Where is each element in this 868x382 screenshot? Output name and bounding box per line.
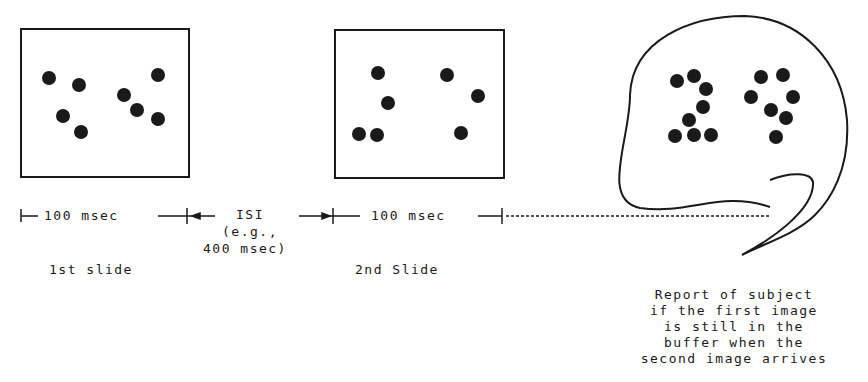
slide1-dots: [42, 68, 165, 139]
slide1-duration: 100 msec: [44, 208, 119, 224]
isi-duration: 400 msec): [203, 241, 287, 257]
dot: [699, 82, 713, 96]
dot: [744, 90, 758, 104]
dot: [74, 125, 88, 139]
dot: [776, 68, 790, 82]
slide2-duration: 100 msec: [371, 208, 446, 224]
dot: [668, 129, 682, 143]
dot: [151, 112, 165, 126]
slide2-label: 2nd Slide: [355, 262, 439, 278]
dot: [72, 78, 86, 92]
dot: [670, 74, 684, 88]
dot: [704, 128, 718, 142]
dot: [56, 109, 70, 123]
dot: [687, 128, 701, 142]
dot: [130, 103, 144, 117]
slide1-frame: [21, 29, 189, 177]
dot: [769, 130, 783, 144]
dot: [454, 126, 468, 140]
isi-example: (e.g.,: [222, 224, 278, 240]
dot: [42, 71, 56, 85]
dot: [687, 69, 701, 83]
dot: [764, 103, 778, 117]
caption-line: if the first image: [600, 303, 868, 319]
slide1-label: 1st slide: [49, 262, 133, 278]
caption-line: Report of subject: [600, 287, 868, 303]
dot: [754, 70, 768, 84]
isi-label: ISI: [236, 207, 264, 223]
dot: [471, 89, 485, 103]
buffer-bubble-outline: [619, 16, 847, 255]
slide2-frame: [335, 30, 504, 178]
dot: [370, 128, 384, 142]
dot: [786, 90, 800, 104]
dot: [779, 111, 793, 125]
buffer-caption: Report of subject if the first image is …: [600, 287, 868, 367]
caption-line: is still in the: [600, 319, 868, 335]
dot: [371, 66, 385, 80]
buffer-dots: [668, 68, 800, 144]
dot: [696, 100, 710, 114]
dot: [117, 88, 131, 102]
caption-line: second image arrives: [600, 351, 868, 367]
dot: [682, 113, 696, 127]
dot: [151, 68, 165, 82]
slide2-dots: [352, 66, 485, 142]
caption-line: buffer when the: [600, 335, 868, 351]
dot: [352, 127, 366, 141]
dot: [381, 96, 395, 110]
dot: [440, 68, 454, 82]
